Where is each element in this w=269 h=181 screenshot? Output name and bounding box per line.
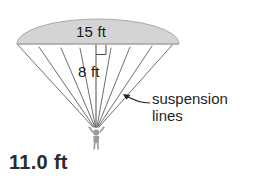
skydiver-figure xyxy=(88,127,105,150)
suspension-lines-callout: suspension lines xyxy=(152,90,228,124)
skydiver-head xyxy=(93,129,99,135)
skydiver-torso xyxy=(93,136,99,143)
canopy-width-label: 15 ft xyxy=(76,24,106,39)
suspension-line xyxy=(97,48,111,127)
suspension-line xyxy=(39,47,94,127)
callout-text-line-1: suspension xyxy=(152,90,228,107)
callout-text-line-2: lines xyxy=(152,107,228,124)
right-angle-marker xyxy=(96,45,106,55)
skydiver-right-leg xyxy=(97,143,99,150)
skydiver-right-arm xyxy=(100,127,106,134)
skydiver-left-arm xyxy=(88,127,94,134)
callout-leader-line xyxy=(126,96,151,104)
parachute-diagram: 15 ft 8 ft suspension lines 11.0 ft xyxy=(0,0,269,181)
skydiver-left-leg xyxy=(93,143,95,150)
line-length-answer-label: 11.0 ft xyxy=(9,152,68,172)
suspension-line xyxy=(61,48,95,127)
canopy-height-label: 8 ft xyxy=(78,64,100,79)
